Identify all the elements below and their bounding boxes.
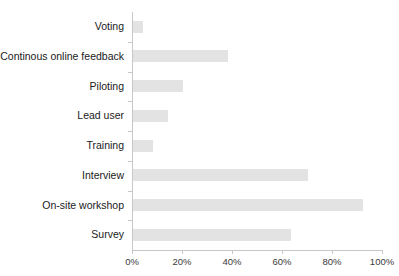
bar-row: Training [132,131,382,161]
bar [133,140,153,152]
x-axis-tick [132,250,133,254]
x-axis-tick [232,250,233,254]
y-axis-tick [128,220,132,221]
y-axis-tick [128,161,132,162]
category-label: Interview [0,161,124,191]
category-label: Lead user [0,101,124,131]
x-axis-tick [282,250,283,254]
bar-row: Continous online feedback [132,42,382,72]
bar-row: Voting [132,12,382,42]
bar-row: Piloting [132,72,382,102]
y-axis-tick [128,72,132,73]
category-label: Continous online feedback [0,42,124,72]
bar-row: Survey [132,220,382,250]
y-axis-tick [128,42,132,43]
y-axis-tick [128,131,132,132]
x-axis-tick-label: 0% [125,256,139,267]
x-axis-tick-label: 80% [322,256,341,267]
category-label: On-site workshop [0,191,124,221]
bar-chart: VotingContinous online feedbackPilotingL… [0,0,399,276]
x-axis-tick [382,250,383,254]
bar [133,199,363,211]
x-axis-tick-label: 20% [172,256,191,267]
bar [133,21,143,33]
bar [133,110,168,122]
category-label: Piloting [0,72,124,102]
x-axis-tick-label: 60% [272,256,291,267]
bar-row: Lead user [132,101,382,131]
bar [133,80,183,92]
bar [133,50,228,62]
x-axis-tick [182,250,183,254]
x-axis-line [132,250,383,251]
plot-area: VotingContinous online feedbackPilotingL… [132,12,382,250]
category-label: Voting [0,12,124,42]
y-axis-tick [128,191,132,192]
x-axis-tick-label: 40% [222,256,241,267]
bar-row: On-site workshop [132,191,382,221]
bar [133,169,308,181]
category-label: Survey [0,220,124,250]
x-axis-tick [332,250,333,254]
y-axis-tick [128,101,132,102]
category-label: Training [0,131,124,161]
bar-row: Interview [132,161,382,191]
x-axis-tick-label: 100% [370,256,394,267]
bar [133,229,291,241]
